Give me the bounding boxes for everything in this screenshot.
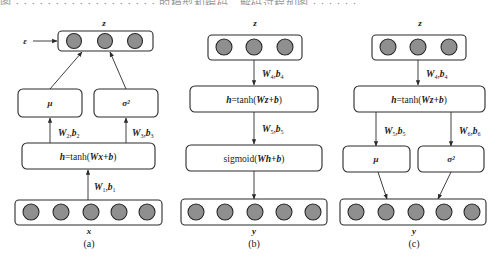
y-node [464, 204, 480, 220]
y-node [348, 204, 364, 220]
sigmoid-formula: sigmoid(Wh+b) [224, 154, 285, 165]
z-node [67, 34, 82, 49]
y-node [247, 204, 263, 220]
edge-label-w3b3: W3,b3 [132, 128, 154, 139]
sigma-to-y-arrow [438, 172, 451, 199]
y-node [305, 204, 321, 220]
x-node [83, 204, 99, 220]
y-node [378, 204, 394, 220]
y-node [436, 204, 452, 220]
mu-label-c: μ [372, 154, 378, 164]
edge-label-w6b6-c: W6,b6 [459, 126, 481, 137]
y-node [188, 204, 204, 220]
hidden-formula-b: h=tanh(Wz+b) [226, 95, 282, 106]
panel-b: z W4,b4 h=tanh(Wz+b) W5,b5 sigmoid(Wh+b)… [181, 18, 327, 250]
mu-label-a: μ [46, 98, 52, 108]
y-node [276, 204, 292, 220]
panel-c: z W4,b4 h=tanh(Wz+b) W5,b5 W6,b6 μ σ² y [340, 18, 486, 250]
sigma-to-z-arrow [110, 52, 126, 89]
z-node [380, 39, 396, 55]
edge-label-w5b5-c: W5,b5 [384, 126, 406, 137]
edge-label-w4b4-b: W4,b4 [262, 69, 284, 80]
caption-b: (b) [248, 238, 260, 250]
z-label-c: z [417, 18, 422, 28]
z-node [98, 34, 113, 49]
caption-c: (c) [408, 238, 419, 250]
caption-a: (a) [83, 238, 94, 250]
mu-to-z-arrow [50, 52, 82, 89]
z-node [216, 39, 232, 55]
edge-label-w4b4-c: W4,b4 [426, 69, 448, 80]
x-node [111, 204, 127, 220]
epsilon-label: ε [23, 36, 27, 46]
y-node [408, 204, 424, 220]
x-node [139, 204, 155, 220]
x-node [53, 204, 69, 220]
z-node [441, 39, 457, 55]
z-node [277, 39, 293, 55]
edge-label-w5b5-b: W5,b5 [262, 124, 284, 135]
x-label: x [86, 226, 92, 236]
mu-to-y-arrow [378, 172, 387, 199]
edge-label-w1b1: W1,b1 [94, 182, 116, 193]
y-label-c: y [411, 226, 417, 236]
z-nodes-a [67, 34, 143, 49]
hidden-formula-a: h=tanh(Wx+b) [60, 152, 117, 163]
z-nodes-c [380, 39, 457, 55]
panel-a: z ε μ σ² W2,b2 W3,b3 h=tanh(Wx+b) W1,b1 [15, 18, 162, 250]
sigma-label-c: σ² [447, 154, 455, 164]
edge-label-w2b2: W2,b2 [58, 128, 80, 139]
z-node [246, 39, 262, 55]
z-label-b: z [252, 18, 257, 28]
z-node [128, 34, 143, 49]
vae-diagram: z ε μ σ² W2,b2 W3,b3 h=tanh(Wx+b) W1,b1 [0, 0, 499, 264]
y-node [217, 204, 233, 220]
sigma-label-a: σ² [122, 98, 130, 108]
hidden-formula-c: h=tanh(Wz+b) [391, 95, 447, 106]
y-label-b: y [251, 226, 257, 236]
x-node [23, 204, 39, 220]
z-label-a: z [101, 18, 106, 28]
z-nodes-b [216, 39, 293, 55]
z-node [410, 39, 426, 55]
